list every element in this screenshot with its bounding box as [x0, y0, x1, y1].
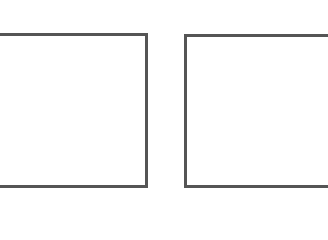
left-empty-box [0, 33, 148, 188]
right-empty-box [184, 34, 328, 188]
